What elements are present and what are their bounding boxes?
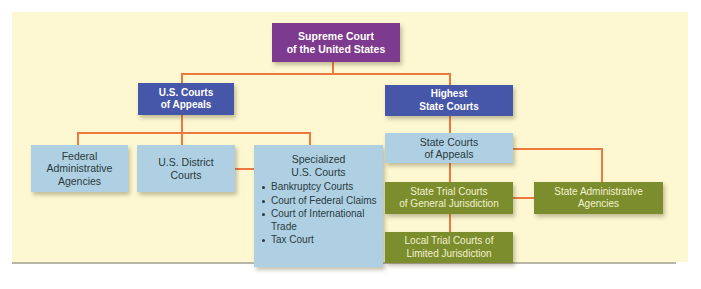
node-label: State Courts	[419, 101, 478, 114]
list-item: Bankruptcy Courts	[261, 181, 383, 194]
node-label: of General Jurisdiction	[399, 198, 499, 211]
node-federal-admin-agencies: Federal Administrative Agencies	[31, 145, 128, 192]
connector-top-horizontal	[181, 73, 451, 75]
node-state-admin-agencies: State Administrative Agencies	[534, 182, 663, 214]
node-label: of Appeals	[161, 99, 212, 112]
node-highest-state-courts: Highest State Courts	[385, 85, 513, 116]
connector-highest-to-state-appeals	[449, 116, 451, 133]
node-label: of the United States	[287, 43, 386, 56]
connector-state-appeals-to-trial	[449, 163, 451, 182]
connector-to-specialized	[309, 132, 311, 145]
node-label: Highest	[431, 88, 468, 101]
connector-us-appeals-down	[181, 115, 183, 133]
list-item: Court of Federal Claims	[261, 195, 383, 208]
node-label: Courts	[171, 169, 202, 182]
node-label: U.S. Courts	[159, 87, 213, 100]
node-label: Local Trial Courts of	[405, 235, 494, 248]
node-label: Federal	[62, 150, 98, 163]
connector-to-us-district	[181, 132, 183, 145]
connector-to-highest-state	[449, 73, 451, 85]
specialized-courts-list: Bankruptcy Courts Court of Federal Claim…	[254, 181, 383, 248]
list-item: Court of International Trade	[261, 208, 383, 233]
list-item: Tax Court	[261, 234, 383, 247]
connector-trial-to-state-admin	[513, 197, 534, 199]
connector-federal-horizontal	[77, 132, 311, 134]
node-label: State Trial Courts	[410, 186, 487, 199]
node-state-trial-general: State Trial Courts of General Jurisdicti…	[385, 182, 513, 214]
node-state-courts-of-appeals: State Courts of Appeals	[385, 133, 513, 163]
node-label: Administrative	[47, 162, 113, 175]
node-label: State Administrative	[554, 186, 642, 199]
connector-to-federal-admin	[77, 132, 79, 145]
node-us-district-courts: U.S. District Courts	[137, 145, 235, 192]
node-us-courts-of-appeals: U.S. Courts of Appeals	[138, 83, 234, 115]
node-label: U.S. Courts	[291, 166, 345, 179]
node-label: State Courts	[420, 136, 478, 149]
connector-state-appeals-right	[513, 148, 603, 150]
node-label: Supreme Court	[298, 30, 374, 43]
node-label: Agencies	[578, 198, 619, 211]
node-label: Agencies	[58, 175, 101, 188]
node-label: Limited Jurisdiction	[406, 248, 491, 261]
connector-district-specialized	[235, 168, 254, 170]
node-label: U.S. District	[158, 156, 213, 169]
node-supreme-court: Supreme Court of the United States	[272, 23, 400, 62]
connector-trial-to-local	[449, 214, 451, 232]
connector-to-state-admin	[601, 148, 603, 182]
node-local-trial-limited: Local Trial Courts of Limited Jurisdicti…	[385, 232, 513, 263]
node-specialized-us-courts: Specialized U.S. Courts Bankruptcy Court…	[254, 145, 383, 267]
node-label: of Appeals	[424, 148, 473, 161]
node-label: Specialized	[292, 153, 346, 166]
